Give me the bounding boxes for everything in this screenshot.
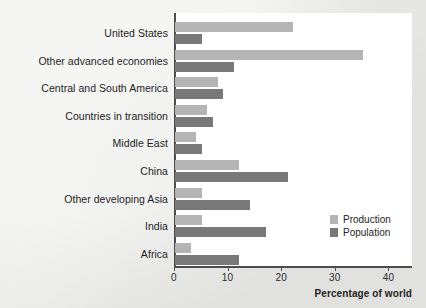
bar-production [175, 50, 363, 60]
category-label: Countries in transition [0, 110, 168, 122]
category-label: India [0, 220, 168, 232]
x-axis-tick-label: 10 [222, 272, 234, 283]
category-label: Africa [0, 248, 168, 260]
bar-production [175, 160, 239, 170]
bar-production [175, 105, 207, 115]
legend-item-population: Population [330, 226, 391, 239]
bar-population [175, 62, 234, 72]
x-axis-tick [174, 266, 175, 271]
x-axis-title: Percentage of world [0, 288, 412, 299]
bar-population [175, 255, 239, 265]
bar-production [175, 132, 196, 142]
category-label: Other developing Asia [0, 193, 168, 205]
bar-population [175, 34, 202, 44]
x-axis-tick-label: 30 [329, 272, 341, 283]
x-axis-tick-label: 0 [171, 272, 177, 283]
bar-production [175, 243, 191, 253]
bar-production [175, 188, 202, 198]
x-axis-tick [335, 266, 336, 271]
category-label: United States [0, 27, 168, 39]
bar-production [175, 77, 218, 87]
category-label: Central and South America [0, 82, 168, 94]
bar-population [175, 172, 288, 182]
x-axis-tick-label: 20 [275, 272, 287, 283]
chart-legend: Production Population [330, 213, 391, 239]
x-axis-line [174, 266, 412, 268]
legend-label-production: Production [343, 214, 391, 225]
bar-population [175, 227, 266, 237]
bar-chart-figure: 010203040 United StatesOther advanced ec… [0, 0, 426, 308]
x-axis-tick [388, 266, 389, 271]
category-label: China [0, 165, 168, 177]
category-label: Other advanced economies [0, 55, 168, 67]
bar-production [175, 22, 293, 32]
bar-population [175, 89, 223, 99]
legend-swatch-population-icon [330, 228, 338, 237]
x-axis-tick [281, 266, 282, 271]
bar-population [175, 144, 202, 154]
legend-item-production: Production [330, 213, 391, 226]
bar-population [175, 200, 250, 210]
bar-production [175, 215, 202, 225]
x-axis-tick [228, 266, 229, 271]
legend-swatch-production-icon [330, 215, 338, 224]
bar-population [175, 117, 213, 127]
category-label: Middle East [0, 137, 168, 149]
x-axis-tick-label: 40 [383, 272, 395, 283]
legend-label-population: Population [343, 227, 390, 238]
